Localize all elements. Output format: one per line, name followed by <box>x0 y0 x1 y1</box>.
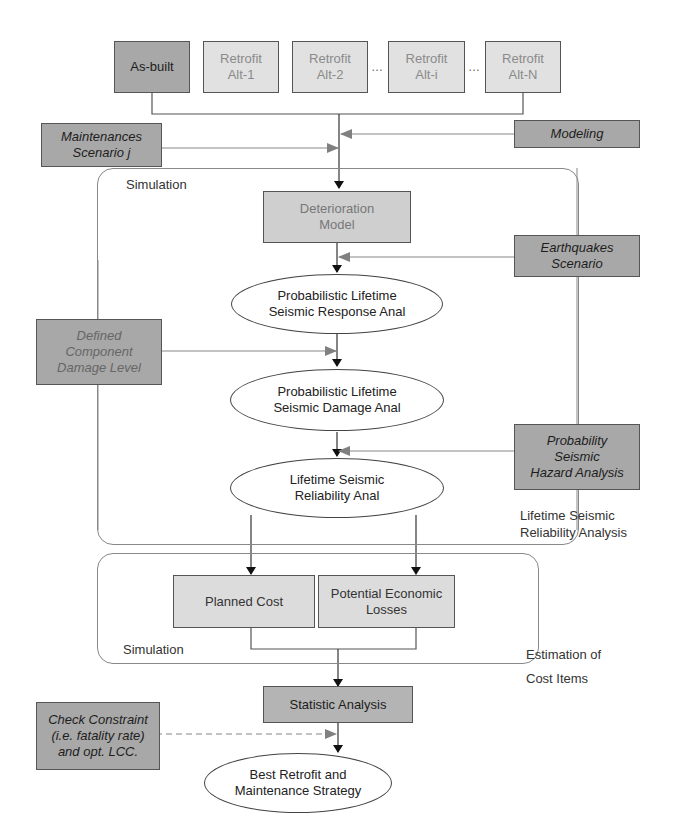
earthquakes-line2: Scenario <box>551 256 602 272</box>
modeling-label: Modeling <box>551 126 604 142</box>
losses-line2: Losses <box>366 602 407 618</box>
result-line1: Best Retrofit and <box>250 767 347 783</box>
hazard-line3: Hazard Analysis <box>530 465 623 481</box>
retrofit-alt-1-line1: Retrofit <box>220 51 262 67</box>
constraint-line1: Check Constraint <box>48 712 148 728</box>
losses-line1: Potential Economic <box>331 586 442 602</box>
retrofit-alt-n-line1: Retrofit <box>502 51 544 67</box>
caption-1-line1: Lifetime Seismic <box>520 507 627 524</box>
reliability-line1: Lifetime Seismic <box>290 472 385 488</box>
retrofit-alt-2-line1: Retrofit <box>309 51 351 67</box>
ellipsis-2: … <box>468 60 480 74</box>
seismic-reliability-analysis-ellipse: Lifetime Seismic Reliability Anal <box>230 458 444 518</box>
retrofit-alt-i-line2: Alt-i <box>415 67 437 83</box>
damage-level-line3: Damage Level <box>57 360 141 376</box>
retrofit-alt-2-line2: Alt-2 <box>317 67 344 83</box>
deterioration-line2: Model <box>319 217 354 233</box>
planned-cost-box: Planned Cost <box>173 575 315 628</box>
damage-level-line2: Component <box>65 344 132 360</box>
reliability-line2: Reliability Anal <box>295 488 380 504</box>
retrofit-alt-i-box: Retrofit Alt-i <box>388 41 465 93</box>
retrofit-alt-2-box: Retrofit Alt-2 <box>292 41 368 93</box>
response-line2: Seismic Response Anal <box>269 304 406 320</box>
retrofit-alt-n-box: Retrofit Alt-N <box>485 41 561 93</box>
cost-items-caption: Estimation of Cost Items <box>526 643 601 691</box>
reliability-analysis-caption: Lifetime Seismic Reliability Analysis <box>520 507 627 541</box>
statistic-analysis-box: Statistic Analysis <box>263 686 413 723</box>
constraint-line3: and opt. LCC. <box>58 744 138 760</box>
statistic-label: Statistic Analysis <box>290 697 387 713</box>
retrofit-alt-i-line1: Retrofit <box>406 51 448 67</box>
flowchart-canvas: As-built Retrofit Alt-1 Retrofit Alt-2 …… <box>0 0 678 839</box>
deterioration-model-box: Deterioration Model <box>263 191 411 243</box>
retrofit-alt-1-line2: Alt-1 <box>228 67 255 83</box>
modeling-box: Modeling <box>514 120 640 148</box>
constraint-line2: (i.e. fatality rate) <box>51 728 144 744</box>
as-built-label: As-built <box>130 59 173 75</box>
caption-1-line2: Reliability Analysis <box>520 524 627 541</box>
ellipsis-1: … <box>371 60 383 74</box>
seismic-damage-analysis-ellipse: Probabilistic Lifetime Seismic Damage An… <box>230 369 444 431</box>
retrofit-alt-1-box: Retrofit Alt-1 <box>203 41 279 93</box>
damage-line1: Probabilistic Lifetime <box>277 384 396 400</box>
caption-2-line2: Cost Items <box>526 667 601 691</box>
potential-losses-box: Potential Economic Losses <box>318 575 455 628</box>
earthquakes-scenario-box: Earthquakes Scenario <box>514 235 640 277</box>
damage-line2: Seismic Damage Anal <box>273 400 400 416</box>
check-constraint-box: Check Constraint (i.e. fatality rate) an… <box>36 702 160 770</box>
seismic-hazard-analysis-box: Probability Seismic Hazard Analysis <box>514 424 640 490</box>
result-line2: Maintenance Strategy <box>235 783 361 799</box>
simulation-label-1: Simulation <box>126 176 187 193</box>
retrofit-alt-n-line2: Alt-N <box>509 67 538 83</box>
deterioration-line1: Deterioration <box>300 201 374 217</box>
maintenance-line1: Maintenances <box>61 129 142 145</box>
maintenance-scenario-box: Maintenances Scenario j <box>41 123 162 167</box>
earthquakes-line1: Earthquakes <box>541 240 614 256</box>
caption-2-line1: Estimation of <box>526 643 601 667</box>
damage-level-line1: Defined <box>77 328 122 344</box>
best-strategy-ellipse: Best Retrofit and Maintenance Strategy <box>204 753 392 813</box>
simulation-label-2: Simulation <box>123 641 184 658</box>
response-line1: Probabilistic Lifetime <box>277 288 396 304</box>
seismic-response-analysis-ellipse: Probabilistic Lifetime Seismic Response … <box>231 274 443 334</box>
planned-cost-label: Planned Cost <box>205 594 283 610</box>
as-built-box: As-built <box>114 41 190 93</box>
maintenance-line2: Scenario j <box>73 145 131 161</box>
hazard-line1: Probability <box>547 433 608 449</box>
hazard-line2: Seismic <box>554 449 600 465</box>
defined-damage-level-box: Defined Component Damage Level <box>36 319 162 385</box>
